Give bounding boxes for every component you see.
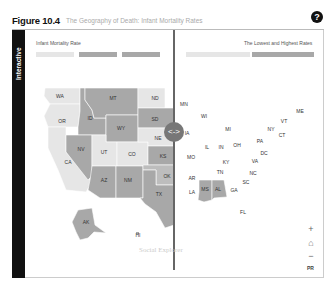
swipe-arrows-icon: <-> — [168, 127, 180, 136]
pr-button[interactable]: PR — [307, 265, 314, 271]
svg-text:AK: AK — [83, 219, 90, 225]
svg-text:GA: GA — [230, 187, 238, 193]
svg-text:HI: HI — [136, 232, 141, 238]
svg-text:WY: WY — [117, 125, 126, 131]
svg-text:NV: NV — [78, 146, 86, 152]
svg-text:NY: NY — [268, 126, 276, 132]
svg-text:WA: WA — [56, 93, 65, 99]
svg-text:SC: SC — [243, 179, 250, 185]
svg-text:VA: VA — [252, 158, 259, 164]
swipe-divider[interactable] — [173, 30, 175, 270]
svg-text:ND: ND — [151, 95, 159, 101]
svg-text:ME: ME — [296, 108, 304, 114]
svg-text:VT: VT — [281, 118, 287, 124]
svg-text:TX: TX — [156, 191, 163, 197]
svg-text:IL: IL — [205, 144, 209, 150]
left-map-layer: WA OR ID MT WY CA NV UT CO AZ NM ND SD N… — [44, 88, 174, 240]
zoom-in-button[interactable]: + — [306, 224, 316, 234]
svg-text:MI: MI — [225, 126, 231, 132]
svg-text:DC: DC — [260, 150, 268, 156]
svg-text:PA: PA — [257, 138, 264, 144]
svg-text:LA: LA — [189, 189, 196, 195]
svg-text:CO: CO — [128, 151, 136, 157]
svg-text:IN: IN — [219, 144, 224, 150]
right-map-layer: MN WI IA MI IL IN OH MO KY AR TN LA MS A… — [180, 101, 304, 215]
svg-text:OK: OK — [163, 173, 171, 179]
svg-text:SD: SD — [152, 116, 159, 122]
svg-text:TN: TN — [217, 169, 224, 175]
svg-text:FL: FL — [240, 209, 246, 215]
svg-text:MN: MN — [180, 101, 188, 107]
svg-text:AR: AR — [189, 175, 196, 181]
svg-text:NM: NM — [124, 177, 132, 183]
svg-text:CT: CT — [279, 132, 286, 138]
svg-text:NE: NE — [155, 135, 163, 141]
svg-text:IA: IA — [185, 130, 190, 136]
svg-text:OR: OR — [58, 118, 66, 124]
zoom-out-button[interactable]: − — [306, 251, 316, 261]
svg-text:OH: OH — [233, 142, 241, 148]
home-icon[interactable]: ⌂ — [306, 238, 316, 248]
svg-text:KY: KY — [223, 159, 230, 165]
svg-text:KS: KS — [160, 153, 167, 159]
social-explorer-watermark: Social Explorer — [139, 246, 183, 254]
svg-text:AZ: AZ — [101, 177, 107, 183]
svg-text:MT: MT — [109, 95, 116, 101]
svg-text:UT: UT — [101, 149, 108, 155]
svg-text:MO: MO — [187, 154, 195, 160]
swipe-handle[interactable]: <-> — [164, 122, 184, 142]
state-MT[interactable] — [85, 88, 138, 118]
svg-text:MS: MS — [201, 186, 209, 192]
svg-text:WI: WI — [201, 113, 207, 119]
svg-text:ID: ID — [88, 115, 93, 121]
svg-text:AL: AL — [215, 186, 221, 192]
svg-text:NC: NC — [249, 170, 257, 176]
svg-text:CA: CA — [65, 159, 73, 165]
